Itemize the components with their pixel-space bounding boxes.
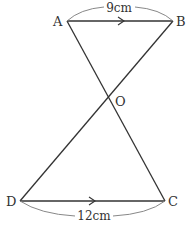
measure-label-dc: 12cm [77,209,111,223]
measure-arc-dc-left [20,201,75,216]
measure-label-ab: 9cm [106,1,132,15]
measure-arc-dc-right [113,201,165,216]
measure-arc-ab-left [67,7,104,21]
point-label-b: B [176,14,186,29]
point-label-c: C [168,194,178,209]
point-label-d: D [6,194,16,209]
similar-triangles-figure: 9cm 12cm A B O D C [0,0,196,234]
point-label-a: A [52,14,63,29]
point-label-o: O [115,94,126,109]
measure-arc-ab-right [135,7,173,21]
diagram-canvas: 9cm 12cm A B O D C [0,0,196,234]
